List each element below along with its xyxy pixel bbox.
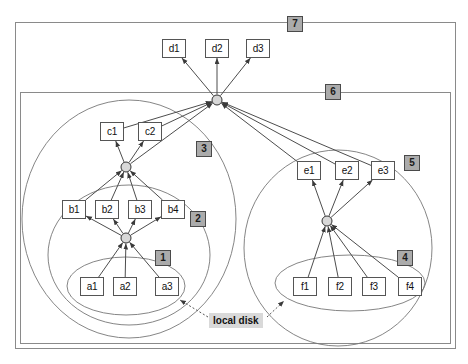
node-label: b3 xyxy=(135,204,146,215)
edge-a2-to-hub-b xyxy=(125,243,126,277)
group-badge-5[interactable]: 5 xyxy=(404,155,420,171)
node-f1[interactable]: f1 xyxy=(293,277,317,296)
group-badge-3[interactable]: 3 xyxy=(196,141,212,157)
edge-e3-to-hub-top xyxy=(222,102,371,165)
node-label: a2 xyxy=(120,281,131,292)
node-c1[interactable]: c1 xyxy=(100,122,124,141)
node-label: e1 xyxy=(304,165,315,176)
node-a3[interactable]: a3 xyxy=(155,277,179,296)
group-badge-6[interactable]: 6 xyxy=(325,84,341,100)
node-e2[interactable]: e2 xyxy=(335,161,359,180)
edge-f4-to-hub-right xyxy=(331,224,398,277)
diagram-canvas: d1d2d3c1c2b1b2b3b4a1a2a3e1e2e3f1f2f3f4 1… xyxy=(0,0,468,364)
node-label: d2 xyxy=(212,43,223,54)
node-label: b4 xyxy=(168,204,179,215)
node-label: b1 xyxy=(69,204,80,215)
node-label: c1 xyxy=(107,126,117,137)
local-disk-annotation: local disk xyxy=(209,313,263,328)
edge-e1-to-hub-top xyxy=(221,103,297,161)
edge-f1-to-hub-right xyxy=(308,226,325,277)
edge-f3-to-hub-right xyxy=(330,225,367,277)
node-b3[interactable]: b3 xyxy=(128,200,152,219)
node-label: c2 xyxy=(145,126,155,137)
node-label: e2 xyxy=(342,165,353,176)
node-e3[interactable]: e3 xyxy=(371,161,395,180)
node-label: a1 xyxy=(87,281,98,292)
hub-top[interactable] xyxy=(212,95,222,105)
edge-b3-to-hub-c xyxy=(128,172,137,200)
node-d3[interactable]: d3 xyxy=(246,39,270,58)
node-c2[interactable]: c2 xyxy=(138,122,162,141)
hub-c[interactable] xyxy=(121,162,131,172)
node-label: f4 xyxy=(406,281,414,292)
edge-hub-c-to-c1 xyxy=(116,141,124,162)
edge-e2-to-hub-top xyxy=(222,103,335,164)
node-label: d3 xyxy=(253,43,264,54)
edge-b1-to-hub-c xyxy=(86,170,122,200)
group-badge-7[interactable]: 7 xyxy=(287,16,303,32)
edge-hub-b-to-b2 xyxy=(113,219,123,233)
disk-arrow-left xyxy=(180,300,208,317)
node-label: f1 xyxy=(301,281,309,292)
hub-right[interactable] xyxy=(322,216,332,226)
node-label: f3 xyxy=(370,281,378,292)
node-f3[interactable]: f3 xyxy=(362,277,386,296)
edge-hub-b-to-b3 xyxy=(128,219,135,233)
edge-hub-top-to-d1 xyxy=(182,58,214,96)
node-e1[interactable]: e1 xyxy=(297,161,321,180)
outer-frame xyxy=(16,23,456,349)
hub-b[interactable] xyxy=(121,233,131,243)
node-label: a3 xyxy=(162,281,173,292)
group-badge-4[interactable]: 4 xyxy=(397,250,413,266)
edge-hub-top-to-d3 xyxy=(220,58,250,96)
node-f4[interactable]: f4 xyxy=(398,277,422,296)
diagram-vector-layer xyxy=(0,0,468,364)
node-a2[interactable]: a2 xyxy=(113,277,137,296)
edge-hub-right-to-e3 xyxy=(331,180,372,217)
group-badge-1[interactable]: 1 xyxy=(155,250,171,266)
group-badge-2[interactable]: 2 xyxy=(190,211,206,227)
node-d1[interactable]: d1 xyxy=(162,39,186,58)
node-b1[interactable]: b1 xyxy=(62,200,86,219)
edge-hub-right-to-e2 xyxy=(329,180,343,216)
node-b2[interactable]: b2 xyxy=(95,200,119,219)
frame-group xyxy=(16,23,456,349)
node-label: b2 xyxy=(102,204,113,215)
node-b4[interactable]: b4 xyxy=(161,200,185,219)
edge-hub-right-to-e1 xyxy=(312,180,325,216)
node-f2[interactable]: f2 xyxy=(328,277,352,296)
node-label: f2 xyxy=(336,281,344,292)
node-label: d1 xyxy=(169,43,180,54)
node-a1[interactable]: a1 xyxy=(80,277,104,296)
node-d2[interactable]: d2 xyxy=(205,39,229,58)
group-ellipse-group xyxy=(22,100,432,346)
node-label: e3 xyxy=(378,165,389,176)
